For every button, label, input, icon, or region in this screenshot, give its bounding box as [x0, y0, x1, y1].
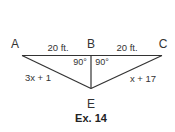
length-label-ce: x + 17: [130, 74, 156, 84]
point-label-c: C: [159, 38, 168, 50]
point-label-b: B: [87, 38, 95, 50]
length-label-ae: 3x + 1: [25, 73, 51, 83]
angle-label-right: 90°: [95, 58, 109, 67]
angle-label-left: 90°: [73, 58, 87, 67]
geometry-figure: A B C E 20 ft. 20 ft. 3x + 1 x + 17 90° …: [0, 0, 175, 132]
length-label-ab: 20 ft.: [47, 43, 68, 53]
point-label-e: E: [87, 98, 95, 110]
length-label-bc: 20 ft.: [116, 43, 137, 53]
figure-caption: Ex. 14: [75, 113, 107, 124]
point-label-a: A: [11, 38, 19, 50]
